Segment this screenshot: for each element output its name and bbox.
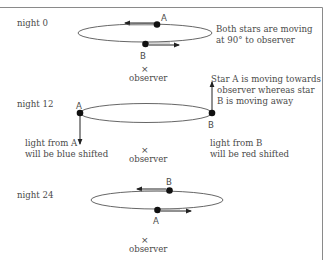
star-b-dot — [166, 187, 173, 194]
night-12-note-line-1: Star A is moving towards — [211, 74, 321, 85]
panel-label-night-24: night 24 — [17, 190, 53, 201]
observer-label: observer — [129, 244, 167, 255]
night-12-note-line-2: observer whereas star — [217, 85, 315, 96]
star-b-label: B — [208, 120, 214, 130]
star-b-dot — [142, 41, 149, 48]
night-0-note-line-1: Both stars are moving — [216, 24, 312, 35]
star-a-label: A — [153, 216, 159, 226]
night-12-orbit — [77, 82, 216, 144]
night-12-note-line-3: B is moving away — [217, 96, 293, 107]
night-0-note-line-2: at 90° to observer — [216, 35, 295, 46]
panel-label-night-0: night 0 — [17, 18, 48, 29]
caption-a-line-1: light from A — [25, 138, 77, 149]
observer-label: observer — [129, 73, 167, 84]
star-b-dot — [209, 110, 216, 117]
star-a-dot — [154, 207, 161, 214]
caption-b-line-2: will be red shifted — [210, 149, 289, 160]
star-b-label: B — [140, 51, 146, 61]
binary-star-doppler-diagram: night 0 A B Both stars are moving at 90°… — [0, 0, 336, 260]
star-b-label: B — [166, 177, 172, 187]
observer-label: observer — [129, 154, 167, 165]
star-a-dot — [154, 21, 161, 28]
night-0-orbit — [78, 21, 212, 47]
star-a-label: A — [161, 13, 167, 23]
panel-label-night-12: night 12 — [17, 99, 53, 110]
star-a-label: A — [76, 101, 82, 111]
caption-a-line-2: will be blue shifted — [25, 149, 108, 160]
night-24-orbit — [91, 187, 223, 213]
caption-b-line-1: light from B — [210, 138, 262, 149]
